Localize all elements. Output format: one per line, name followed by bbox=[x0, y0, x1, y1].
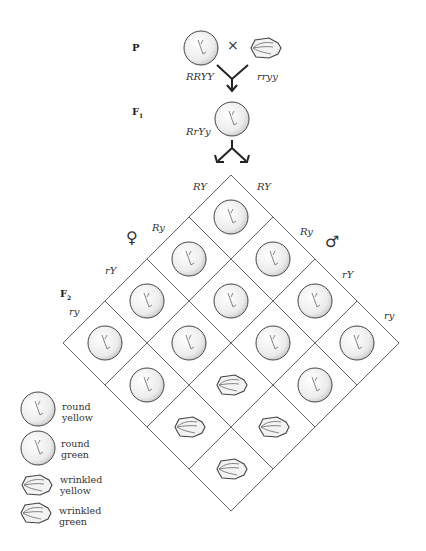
legend-text: round bbox=[61, 438, 90, 449]
female-gamete-2: Ry bbox=[152, 222, 165, 233]
legend-wrinkled-yellow: wrinkledyellow bbox=[60, 474, 102, 496]
legend-text: wrinkled bbox=[59, 505, 101, 516]
parent-wrinkled-green-seed bbox=[251, 38, 281, 58]
parent-right-genotype: rryy bbox=[257, 71, 278, 82]
female-gamete-1: RY bbox=[193, 181, 207, 192]
legend-text: green bbox=[59, 516, 87, 527]
cross-symbol: × bbox=[227, 37, 239, 53]
male-symbol-icon: ♂ bbox=[325, 232, 339, 251]
female-symbol-icon: ♀ bbox=[126, 228, 138, 247]
legend-wrinkled-green: wrinkledgreen bbox=[59, 505, 101, 527]
split-arrow-icon bbox=[215, 140, 249, 162]
legend-text: green bbox=[61, 449, 89, 460]
f1-genotype: RrYy bbox=[186, 126, 211, 137]
male-gamete-2: Ry bbox=[300, 226, 313, 237]
parent-left-genotype: RRYY bbox=[186, 71, 214, 82]
generation-p-label: P bbox=[132, 42, 140, 53]
legend-text: yellow bbox=[62, 412, 93, 423]
female-gamete-4: ry bbox=[69, 306, 79, 317]
cross-arrow-icon bbox=[217, 65, 248, 91]
legend-round-green: roundgreen bbox=[61, 438, 90, 460]
legend-text: yellow bbox=[60, 485, 91, 496]
f1-round-yellow-seed bbox=[215, 102, 249, 136]
legend-text: wrinkled bbox=[60, 474, 102, 485]
parent-round-yellow-seed bbox=[184, 31, 218, 65]
female-gamete-3: rY bbox=[105, 265, 116, 276]
legend-icons bbox=[21, 392, 55, 523]
male-gamete-1: RY bbox=[257, 181, 271, 192]
f1-sub: 1 bbox=[139, 112, 143, 119]
dihybrid-cross-diagram bbox=[0, 0, 426, 551]
legend-text: round bbox=[62, 401, 91, 412]
generation-f1-label: F1 bbox=[132, 106, 143, 119]
f2-sub: 2 bbox=[67, 294, 71, 301]
male-gamete-4: ry bbox=[384, 310, 394, 321]
male-gamete-3: rY bbox=[342, 269, 353, 280]
generation-f2-label: F2 bbox=[60, 288, 71, 301]
legend-round-yellow: roundyellow bbox=[62, 401, 93, 423]
